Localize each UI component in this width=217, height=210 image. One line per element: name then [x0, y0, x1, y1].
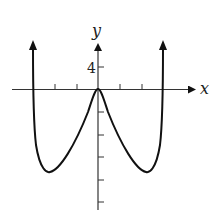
y-ticks: [98, 67, 104, 202]
left-arrow-head: [29, 40, 37, 50]
y-axis-label: y: [91, 21, 102, 40]
y-tick-label-4: 4: [87, 60, 96, 76]
right-arrow-head: [159, 40, 167, 50]
graph: y x 4: [0, 0, 217, 210]
x-axis-label: x: [200, 79, 209, 98]
